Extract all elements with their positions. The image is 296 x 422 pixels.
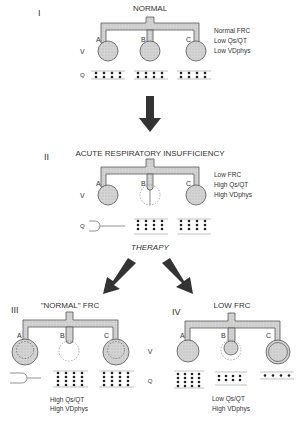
alveolus-label-a: A — [180, 332, 185, 339]
panel-numeral: III — [11, 305, 19, 315]
panel-title: LOW FRC — [214, 301, 251, 310]
note-shunt: High Qs/QT — [214, 181, 248, 189]
respiratory-diagram: I NORMAL A B C V Q Norm — [0, 0, 296, 422]
axis-q: Q — [148, 378, 153, 384]
panel-numeral: IV — [172, 307, 181, 317]
arrow-left-icon — [103, 258, 136, 294]
alveolus-label-c: C — [266, 332, 271, 339]
note-deadspace: High VDphys — [212, 405, 251, 413]
therapy-label: THERAPY — [131, 243, 169, 252]
alveolus-label-b: B — [141, 180, 146, 187]
alveolus-label-c: C — [186, 180, 191, 187]
alveolus-label-a: A — [96, 36, 101, 43]
note-shunt: Low Qs/QT — [214, 37, 247, 45]
alveolus-label-b: B — [221, 332, 226, 339]
alveolus-label-a: A — [17, 332, 22, 339]
collapsed-alveolus — [59, 341, 79, 361]
panel-normal: I NORMAL A B C V Q Norm — [38, 4, 251, 79]
note-shunt: High Qs/QT — [50, 396, 84, 404]
axis-v: V — [80, 192, 85, 199]
panel-numeral: II — [44, 152, 49, 162]
shunt-vessel — [89, 221, 125, 231]
panel-normal-frc: III "NORMAL" FRC A B C High — [10, 301, 134, 413]
panel-low-frc: IV LOW FRC A B C Low Qs/ — [172, 301, 294, 413]
perfusion-dots — [174, 371, 294, 388]
down-arrow-icon — [139, 96, 161, 132]
axis-q: Q — [80, 72, 85, 78]
note-frc: Normal FRC — [214, 27, 250, 34]
panel-title: NORMAL — [133, 4, 168, 13]
note-deadspace: Low VDphys — [214, 47, 251, 55]
airway-tree — [177, 313, 290, 364]
alveolus-label-b: B — [141, 36, 146, 43]
axis-v: V — [80, 48, 85, 55]
alveolus-label-a: A — [96, 180, 101, 187]
panel-acute-insufficiency: II ACUTE RESPIRATORY INSUFFICIENCY A B C… — [44, 149, 253, 234]
perfusion-dots — [91, 71, 211, 79]
perfusion-dots — [134, 219, 211, 234]
axis-q: Q — [80, 223, 85, 229]
alveolus-label-b: B — [60, 332, 65, 339]
perfusion-dots — [53, 371, 134, 387]
axis-v: V — [148, 348, 153, 355]
panel-title: "NORMAL" FRC — [41, 301, 100, 310]
note-deadspace: High VDphys — [50, 405, 89, 413]
note-deadspace: High VDphys — [214, 191, 253, 199]
arrow-right-icon — [162, 258, 193, 294]
shunt-vessel — [10, 373, 41, 383]
alveolus-label-c: C — [104, 332, 109, 339]
alveolus-label-c: C — [186, 36, 191, 43]
panel-numeral: I — [38, 8, 41, 18]
note-shunt: Low Qs/QT — [212, 395, 245, 403]
panel-title: ACUTE RESPIRATORY INSUFFICIENCY — [75, 149, 225, 158]
note-frc: Low FRC — [214, 171, 241, 178]
